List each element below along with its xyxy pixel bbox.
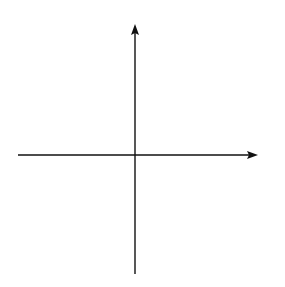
chart-canvas [0,0,285,287]
